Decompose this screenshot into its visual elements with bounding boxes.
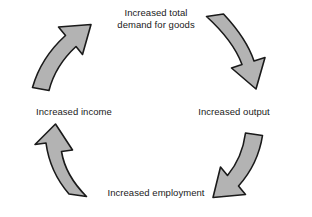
- node-label-demand: Increased total demand for goods: [0, 7, 312, 31]
- arrow-employment-to-income: [35, 124, 87, 197]
- node-label-income: Increased income: [0, 106, 148, 118]
- circular-flow-diagram: Increased total demand for goods Increas…: [0, 0, 312, 217]
- node-label-output: Increased output: [156, 106, 312, 118]
- node-label-demand-line-1: Increased total: [0, 7, 312, 19]
- node-label-employment: Increased employment: [56, 187, 256, 199]
- node-label-demand-line-2: demand for goods: [0, 19, 312, 31]
- arrow-income-to-demand: [33, 25, 92, 91]
